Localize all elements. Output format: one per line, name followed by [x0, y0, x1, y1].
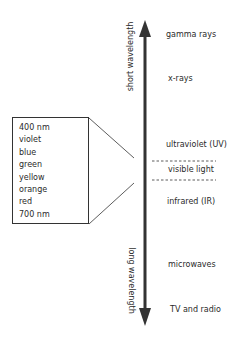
arrow-down-icon	[139, 308, 151, 326]
visible-detail-item: orange	[19, 184, 88, 196]
zoom-line-bottom	[89, 183, 134, 224]
spectrum-ultraviolet: ultraviolet (UV)	[166, 140, 227, 149]
visible-detail-item: yellow	[19, 172, 88, 184]
spectrum-tv-radio: TV and radio	[170, 305, 221, 314]
visible-detail-item: 400 nm	[19, 122, 88, 134]
visible-detail-item: 700 nm	[19, 209, 88, 221]
short-wavelength-label: short wavelength	[126, 22, 135, 92]
spectrum-microwaves: microwaves	[168, 260, 216, 269]
visible-detail-item: red	[19, 196, 88, 208]
arrow-up-icon	[139, 20, 151, 37]
spectrum-gamma-rays: gamma rays	[166, 30, 216, 39]
visible-detail-item: green	[19, 159, 88, 171]
visible-detail-item: blue	[19, 147, 88, 159]
spectrum-visible-light: visible light	[168, 165, 214, 174]
spectrum-infrared: infrared (IR)	[167, 197, 215, 206]
visible-detail-box: 400 nm violet blue green yellow orange r…	[12, 117, 89, 224]
long-wavelength-label: long wavelength	[127, 247, 136, 313]
visible-detail-item: violet	[19, 134, 88, 146]
zoom-line-top	[89, 118, 134, 158]
spectrum-x-rays: x-rays	[168, 74, 193, 83]
